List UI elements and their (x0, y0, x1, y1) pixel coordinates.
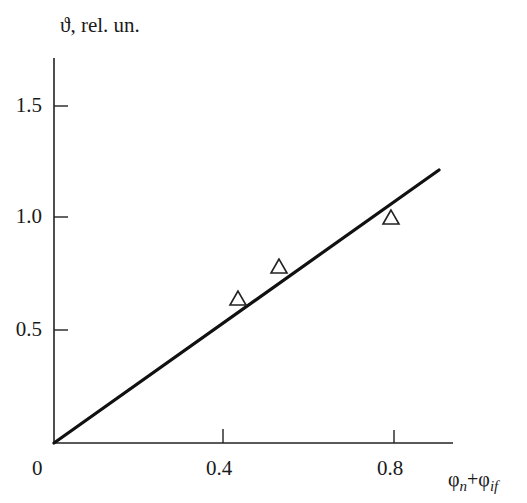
x-tick-label: 0.8 (377, 456, 403, 481)
fit-line (54, 170, 439, 443)
data-point-triangle (271, 259, 287, 273)
data-point-triangle (383, 210, 399, 224)
y-axis-label: ϑ, rel. un. (60, 13, 140, 38)
x-tick-label: 0.4 (206, 456, 232, 481)
x-axis-label-sub-if: if (490, 478, 498, 494)
y-tick-label: 0.5 (2, 317, 42, 342)
x-axis-label-sub-n: n (460, 478, 468, 494)
data-point-triangle (230, 291, 246, 305)
y-tick-label: 1.5 (2, 93, 42, 118)
x-axis-label: φn+φif (448, 468, 498, 495)
chart-canvas (0, 0, 527, 503)
x-axis-label-plus-phi: +φ (467, 468, 490, 490)
origin-label: 0 (32, 456, 43, 481)
y-tick-label: 1.0 (2, 204, 42, 229)
x-axis-label-phi: φ (448, 468, 460, 490)
